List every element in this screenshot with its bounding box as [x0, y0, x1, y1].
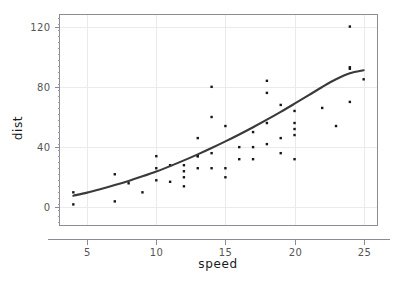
data-point — [155, 167, 157, 169]
data-point — [183, 185, 185, 187]
data-point — [293, 122, 295, 124]
data-point — [210, 116, 212, 118]
data-point — [321, 107, 323, 109]
y-tick-label: 80 — [37, 82, 51, 93]
data-point — [238, 146, 240, 148]
data-point — [72, 191, 74, 193]
data-point — [224, 125, 226, 127]
data-point — [335, 125, 337, 127]
data-point — [280, 137, 282, 139]
data-point — [197, 167, 199, 169]
data-point — [169, 181, 171, 183]
data-point — [127, 182, 129, 184]
data-point — [210, 152, 212, 154]
data-point — [349, 66, 351, 68]
data-point — [349, 101, 351, 103]
x-tick-label: 20 — [289, 247, 303, 258]
y-tick-label: 40 — [37, 142, 51, 153]
data-point — [293, 128, 295, 130]
data-point — [280, 104, 282, 106]
x-tick-label: 5 — [84, 247, 91, 258]
data-point — [155, 155, 157, 157]
data-point — [114, 173, 116, 175]
data-point — [183, 176, 185, 178]
data-point — [141, 191, 143, 193]
data-point — [224, 167, 226, 169]
data-point — [252, 146, 254, 148]
data-point — [266, 122, 268, 124]
scatter-plot-svg: 04080120 510152025 speed dist — [0, 0, 399, 287]
data-point — [210, 167, 212, 169]
data-point — [252, 131, 254, 133]
data-point — [183, 164, 185, 166]
x-axis-title: speed — [198, 257, 237, 271]
data-point — [349, 25, 351, 27]
data-point — [280, 152, 282, 154]
data-point — [224, 176, 226, 178]
x-tick-label: 25 — [358, 247, 372, 258]
data-point — [197, 137, 199, 139]
y-tick-label: 0 — [44, 202, 51, 213]
data-point — [72, 203, 74, 205]
data-point — [155, 179, 157, 181]
data-point — [266, 80, 268, 82]
data-point — [210, 86, 212, 88]
data-point — [183, 170, 185, 172]
chart-container: 04080120 510152025 speed dist — [0, 0, 399, 287]
y-axis-title: dist — [11, 116, 25, 140]
y-tick-label: 120 — [30, 22, 50, 33]
data-point — [293, 158, 295, 160]
data-point — [362, 78, 364, 80]
data-point — [238, 158, 240, 160]
data-point — [293, 110, 295, 112]
data-point — [293, 134, 295, 136]
data-point — [252, 158, 254, 160]
data-point — [114, 200, 116, 202]
x-tick-label: 10 — [150, 247, 164, 258]
data-point — [266, 143, 268, 145]
x-tick-label: 15 — [219, 247, 233, 258]
data-point — [266, 92, 268, 94]
